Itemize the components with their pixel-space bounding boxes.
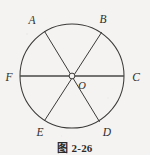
geometry-diagram: A B C D E F O <box>0 0 150 155</box>
point-label-c: C <box>132 71 140 83</box>
point-label-d: D <box>102 126 112 138</box>
point-label-b: B <box>99 13 106 25</box>
figure-caption-text: 图 2-26 <box>57 139 92 155</box>
figure-container: A B C D E F O 图 2-26 <box>0 0 150 155</box>
point-label-e: E <box>35 126 43 138</box>
figure-caption: 图 2-26 <box>0 139 150 155</box>
point-label-a: A <box>27 14 36 26</box>
point-label-f: F <box>4 71 13 83</box>
center-label-o: O <box>78 80 86 91</box>
center-point-marker <box>69 73 75 79</box>
